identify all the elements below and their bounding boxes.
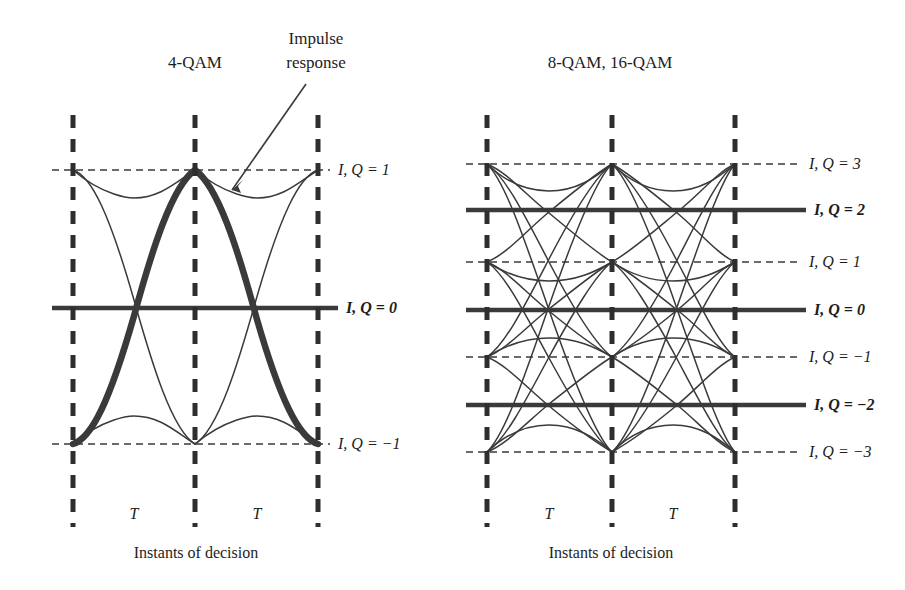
panel-title-8qam-16qam: 8-QAM, 16-QAM (548, 53, 673, 72)
level-label-3: I, Q = 3 (808, 155, 861, 172)
impulse-response-annotation: Impulse response (232, 29, 346, 193)
impulse-response-label-line1: Impulse (289, 29, 344, 48)
panel-4qam: 4-QAM I, Q = 1 I, Q = 0 I, Q = −1 T T In… (52, 53, 400, 561)
trace-1-1-right (612, 262, 735, 281)
level-label-minus-3: I, Q = −3 (808, 443, 871, 460)
level-label-minus-1: I, Q = −1 (808, 348, 871, 365)
level-label-minus-1: I, Q = −1 (337, 435, 400, 452)
trace-m1-m1-right (612, 338, 735, 357)
level-label-1: I, Q = 1 (337, 161, 390, 178)
trace-m3-m3-left (487, 425, 612, 452)
level-label-2: I, Q = 2 (813, 201, 865, 218)
period-label-right-2: T (669, 505, 679, 522)
period-label-left-1: T (130, 505, 140, 522)
trace-1-1-left (487, 262, 612, 281)
trace-m1-m1-left (487, 338, 612, 357)
caption-4qam: Instants of decision (134, 544, 258, 561)
level-label-1: I, Q = 1 (808, 253, 861, 270)
period-label-right-1: T (545, 505, 555, 522)
panel-title-4qam: 4-QAM (168, 53, 222, 72)
impulse-response-leader-line (232, 84, 306, 190)
eye-diagram-figure: 4-QAM I, Q = 1 I, Q = 0 I, Q = −1 T T In… (0, 0, 905, 590)
level-label-0: I, Q = 0 (813, 301, 865, 318)
period-label-left-2: T (253, 505, 263, 522)
impulse-response-label-line2: response (286, 53, 345, 72)
caption-8qam-16qam: Instants of decision (549, 544, 673, 561)
level-label-0: I, Q = 0 (345, 299, 397, 316)
level-label-minus-2: I, Q = −2 (813, 396, 875, 413)
panel-8qam-16qam: 8-QAM, 16-QAM (466, 53, 875, 561)
